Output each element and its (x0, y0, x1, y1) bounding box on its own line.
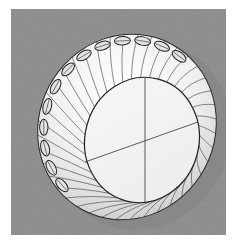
viewport-canvas[interactable] (11, 9, 226, 235)
perspective-viewport[interactable] (11, 9, 226, 235)
